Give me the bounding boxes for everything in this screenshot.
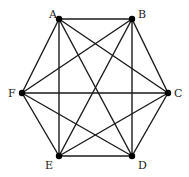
edges — [22, 19, 168, 156]
node-label-b: B — [138, 8, 146, 21]
edge-e-f — [22, 93, 59, 156]
node-e — [56, 153, 62, 159]
labels: ABCDEF — [8, 8, 182, 172]
edge-a-c — [59, 19, 168, 93]
edge-c-d — [132, 93, 168, 156]
node-label-a: A — [48, 8, 58, 21]
complete-graph-k6: ABCDEF — [0, 0, 189, 177]
node-b — [129, 16, 135, 22]
node-f — [19, 90, 25, 96]
node-label-e: E — [45, 159, 53, 172]
node-label-c: C — [174, 87, 182, 100]
edge-a-f — [22, 19, 59, 93]
edge-b-c — [132, 19, 168, 93]
node-d — [129, 153, 135, 159]
node-c — [165, 90, 171, 96]
node-label-d: D — [138, 159, 147, 172]
edge-b-f — [22, 19, 132, 93]
node-label-f: F — [8, 87, 16, 100]
